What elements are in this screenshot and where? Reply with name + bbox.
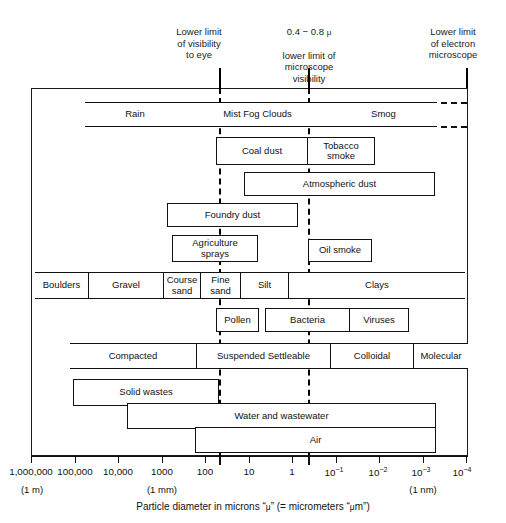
band-cell-boulders: Boulders	[35, 273, 88, 298]
box-bacteria: Bacteria	[265, 308, 350, 332]
box-air: Air	[195, 427, 436, 453]
axis-label-10e-4: 10−4	[438, 466, 486, 478]
box-tobacco-smoke: Tobacco smoke	[307, 137, 375, 165]
band-cell-smog: Smog	[330, 103, 437, 126]
guide-tick-visibility-eye	[219, 68, 221, 88]
box-agriculture-sprays: Agriculture sprays	[172, 235, 258, 262]
axis-tick-major-microscope	[308, 457, 310, 465]
band-meteorological-dash-bottom	[441, 126, 467, 128]
guide-tick-electron-microscope	[466, 68, 468, 88]
axis-tick-1	[292, 457, 293, 463]
box-water-and-wastewater: Water and wastewater	[127, 403, 436, 429]
band-cell-molecular: Molecular	[413, 344, 468, 368]
mu-symbol-icon: μ	[327, 28, 332, 37]
axis-tick-0.01	[379, 457, 380, 463]
band-soil-classification: Boulders Gravel Course sand Fine sand Si…	[35, 272, 465, 299]
band-cell-clays: Clays	[288, 273, 465, 298]
axis-label-100: 100	[181, 466, 229, 477]
band-cell-rain: Rain	[85, 103, 185, 126]
axis-tick-100	[205, 457, 206, 463]
band-cell-silt: Silt	[240, 273, 288, 298]
axis-label-10e-4-base: 10	[453, 467, 464, 478]
box-foundry-dust: Foundry dust	[167, 203, 298, 227]
band-meteorological-dash-top	[441, 102, 467, 104]
guide-tick-microscope	[308, 68, 310, 88]
axis-tick-1000	[162, 457, 163, 463]
box-pollen: Pollen	[216, 308, 259, 332]
band-cell-colloidal: Colloidal	[330, 344, 413, 368]
axis-tick-0.0001	[466, 457, 467, 463]
axis-label-10e-3-exp: −3	[422, 466, 430, 473]
particle-size-chart: Lower limit of visibility to eye 0.4 − 0…	[0, 0, 506, 523]
axis-label-10e-2-exp: −2	[379, 466, 387, 473]
box-solid-wastes: Solid wastes	[73, 379, 219, 406]
box-coal-dust: Coal dust	[216, 137, 308, 165]
axis-sublabel-1nm: (1 nm)	[395, 484, 451, 495]
axis-sublabel-1m: (1 m)	[4, 484, 60, 495]
axis-tick-0.001	[423, 457, 424, 463]
axis-label-10e-2: 10−2	[354, 466, 402, 478]
box-atmospheric-dust: Atmospheric dust	[244, 172, 435, 196]
x-axis-title-c: m”)	[355, 501, 370, 512]
box-viruses: Viruses	[349, 308, 409, 332]
axis-tick-100000	[75, 457, 76, 463]
axis-label-10: 10	[225, 466, 273, 477]
axis-label-1: 1	[268, 466, 316, 477]
guide-label-visibility-eye: Lower limit of visibility to eye	[161, 26, 237, 61]
axis-tick-10	[249, 457, 250, 463]
band-cell-gravel: Gravel	[88, 273, 163, 298]
axis-sublabel-1mm: (1 mm)	[134, 484, 190, 495]
box-oil-smoke: Oil smoke	[308, 239, 372, 262]
axis-label-10e-1-exp: −1	[335, 466, 343, 473]
axis-label-10e-3-base: 10	[412, 467, 423, 478]
band-cell-compacted: Compacted	[70, 344, 196, 368]
axis-tick-major-visibility	[219, 457, 221, 465]
axis-tick-0.1	[336, 457, 337, 463]
band-cell-mist-fog-clouds: Mist Fog Clouds	[185, 103, 330, 126]
band-water-treatment: Compacted Suspended Settleable Colloidal…	[70, 343, 468, 369]
guide-label-electron-microscope: Lower limit of electron microscope	[410, 26, 496, 61]
x-axis-title-b: ” (= micrometers “	[271, 501, 350, 512]
band-cell-fine-sand: Fine sand	[200, 273, 240, 298]
x-axis	[31, 456, 468, 457]
band-meteorological: Rain Mist Fog Clouds Smog	[85, 102, 437, 127]
axis-label-10e-4-exp: −4	[463, 466, 471, 473]
band-cell-suspended-settleable: Suspended Settleable	[196, 344, 330, 368]
axis-tick-10000	[118, 457, 119, 463]
axis-label-10e-2-base: 10	[369, 467, 380, 478]
band-cell-course-sand: Course sand	[163, 273, 200, 298]
axis-label-10e-1-base: 10	[325, 467, 336, 478]
x-axis-title-a: Particle diameter in microns “	[136, 501, 265, 512]
guide-label-microscope-range: 0.4 − 0.8	[287, 26, 327, 37]
x-axis-title: Particle diameter in microns “μ” (= micr…	[0, 501, 506, 512]
axis-label-10e-1: 10−1	[310, 466, 358, 478]
axis-tick-1000000	[31, 457, 32, 463]
